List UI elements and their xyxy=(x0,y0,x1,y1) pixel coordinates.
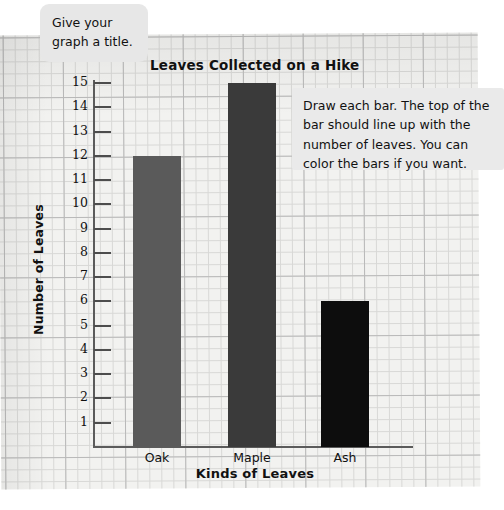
y-tick-mark xyxy=(94,300,111,302)
callout-title-hint: Give your graph a title. xyxy=(40,4,148,62)
y-tick-label: 5 xyxy=(62,317,88,332)
callout-title-line-2: graph a title. xyxy=(52,32,136,51)
y-tick-mark xyxy=(94,82,111,84)
y-tick-label: 4 xyxy=(62,341,88,356)
y-tick-label: 12 xyxy=(62,147,88,162)
y-tick-mark xyxy=(94,106,111,108)
y-tick-mark xyxy=(94,276,111,278)
y-tick-label: 6 xyxy=(62,292,88,307)
y-tick-label: 15 xyxy=(62,74,88,89)
callout-bars-line-2: bar should line up with the xyxy=(303,115,493,134)
y-tick-label: 2 xyxy=(62,389,88,404)
callout-bars-line-4: color the bars if you want. xyxy=(303,154,493,173)
y-tick-label: 7 xyxy=(62,268,88,283)
y-tick-mark xyxy=(94,155,111,157)
y-tick-mark xyxy=(94,131,111,133)
y-axis-line xyxy=(93,80,95,448)
y-tick-mark xyxy=(94,422,111,424)
y-tick-mark xyxy=(94,203,111,205)
y-tick-label: 10 xyxy=(62,195,88,210)
y-tick-label: 11 xyxy=(62,171,88,186)
y-tick-mark xyxy=(94,397,111,399)
y-tick-mark xyxy=(94,179,111,181)
callout-bars-hint: Draw each bar. The top of the bar should… xyxy=(292,88,504,170)
y-tick-mark xyxy=(94,373,111,375)
y-axis-title: Number of Leaves xyxy=(31,200,46,340)
y-tick-label: 9 xyxy=(62,220,88,235)
callout-bars-line-1: Draw each bar. The top of the xyxy=(303,96,493,115)
y-tick-mark xyxy=(94,252,111,254)
y-tick-label: 8 xyxy=(62,244,88,259)
chart-title: Leaves Collected on a Hike xyxy=(150,57,390,73)
callout-bars-line-3: number of leaves. You can xyxy=(303,135,493,154)
bar-oak xyxy=(133,156,181,447)
y-tick-label: 13 xyxy=(62,123,88,138)
y-tick-label: 3 xyxy=(62,365,88,380)
bar-ash xyxy=(321,301,369,447)
x-axis-title: Kinds of Leaves xyxy=(135,466,375,481)
callout-title-line-1: Give your xyxy=(52,13,136,32)
y-tick-mark xyxy=(94,228,111,230)
x-tick-label-oak: Oak xyxy=(112,450,202,465)
x-tick-label-ash: Ash xyxy=(300,450,390,465)
y-tick-mark xyxy=(94,349,111,351)
x-tick-label-maple: Maple xyxy=(207,450,297,465)
bar-maple xyxy=(228,83,276,447)
y-tick-mark xyxy=(94,325,111,327)
y-tick-label: 1 xyxy=(62,414,88,429)
y-tick-label: 14 xyxy=(62,98,88,113)
